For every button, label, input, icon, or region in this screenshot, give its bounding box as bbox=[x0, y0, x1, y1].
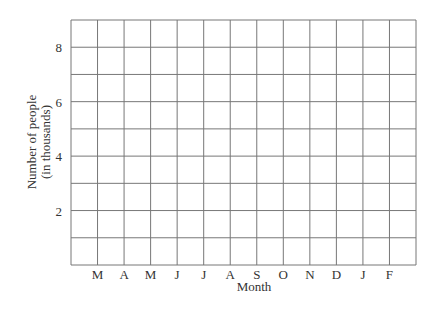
y-axis-label: Number of people (in thousands) bbox=[24, 94, 53, 189]
x-tick-label: M bbox=[145, 267, 157, 282]
chart-grid bbox=[71, 20, 416, 265]
x-tick-label: M bbox=[92, 267, 104, 282]
x-tick-label: O bbox=[279, 267, 288, 282]
blank-line-chart-grid: 2468 MAMJJASONDJF Month Number of people… bbox=[0, 0, 438, 310]
x-tick-label: A bbox=[119, 267, 129, 282]
y-axis-label-line-2: (in thousands) bbox=[38, 105, 53, 179]
x-tick-label: J bbox=[201, 267, 206, 282]
x-tick-label: J bbox=[175, 267, 180, 282]
y-tick-label: 6 bbox=[56, 95, 63, 110]
y-axis-ticks: 2468 bbox=[56, 40, 63, 218]
x-axis-label: Month bbox=[237, 279, 272, 294]
x-tick-label: J bbox=[360, 267, 365, 282]
x-tick-label: N bbox=[305, 267, 315, 282]
x-tick-label: D bbox=[332, 267, 341, 282]
x-tick-label: A bbox=[226, 267, 236, 282]
y-tick-label: 4 bbox=[56, 149, 63, 164]
y-tick-label: 8 bbox=[56, 40, 63, 55]
y-axis-label-line-1: Number of people bbox=[24, 94, 39, 189]
x-tick-label: F bbox=[386, 267, 393, 282]
y-tick-label: 2 bbox=[56, 204, 63, 219]
